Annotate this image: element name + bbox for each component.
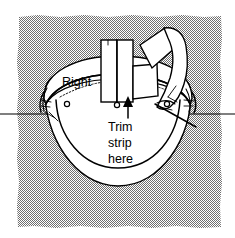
label-trim-line-3: here <box>108 152 133 166</box>
eyelet <box>64 101 69 106</box>
label-trim-line-2: strip <box>108 136 132 150</box>
diagram-canvas: Right Trim strip here <box>0 0 235 238</box>
vertical-strip-right <box>117 40 133 102</box>
eyelet <box>114 102 119 107</box>
eyelet <box>164 101 169 106</box>
label-trim-line-1: Trim <box>108 120 133 134</box>
illustration-figure: Right Trim strip here <box>0 0 235 238</box>
label-right: Right <box>62 75 92 89</box>
horizontal-strip <box>133 64 158 99</box>
vertical-strips-group <box>101 40 133 102</box>
vertical-strip-left <box>101 40 117 102</box>
